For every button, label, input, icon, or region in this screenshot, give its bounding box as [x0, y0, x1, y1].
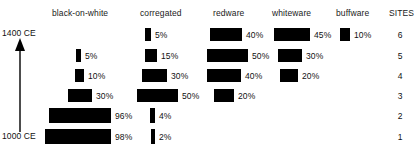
table-row: 10% 30% 40% 20% 4 [0, 65, 417, 86]
bar-label-corregated: 4% [159, 111, 172, 121]
bar-label-redware: 40% [245, 71, 262, 81]
bar-label-black-on-white: 10% [88, 71, 105, 81]
bar-redware [207, 49, 248, 62]
cell-whiteware: 20% [280, 65, 319, 86]
sites-count: 2 [392, 111, 408, 121]
bar-label-buffware: 10% [354, 30, 371, 40]
bar-whiteware [274, 28, 310, 41]
sites-count: 1 [392, 132, 408, 142]
column-header-black-on-white: black-on-white [52, 8, 108, 18]
bar-corregated [137, 89, 178, 102]
cell-redware: 20% [214, 85, 255, 106]
bar-whiteware [280, 69, 298, 82]
bar-corregated [145, 49, 157, 62]
sites-count: 4 [392, 71, 408, 81]
bar-black-on-white [49, 108, 111, 123]
bar-label-corregated: 2% [159, 132, 172, 142]
cell-whiteware: 45% [274, 24, 331, 45]
column-header-whiteware: whiteware [272, 8, 311, 18]
column-header-corregated: corregated [140, 8, 182, 18]
table-row: 96% 4% 2 [0, 105, 417, 126]
cell-redware: 50% [207, 45, 269, 66]
cell-black-on-white: 98% [45, 126, 132, 147]
bar-label-black-on-white: 5% [85, 51, 98, 61]
cell-buffware: 10% [340, 24, 371, 45]
cell-black-on-white [40, 24, 112, 45]
seriation-chart: black-on-white corregated redware whitew… [0, 0, 417, 152]
bar-buffware [340, 28, 350, 41]
bar-label-corregated: 50% [182, 91, 199, 101]
bar-corregated [145, 28, 151, 41]
bar-black-on-white [45, 129, 111, 144]
bar-black-on-white [75, 69, 84, 82]
column-header-sites: SITES [389, 8, 414, 18]
bar-label-redware: 50% [252, 51, 269, 61]
table-row: 30% 50% 20% 3 [0, 85, 417, 106]
bar-label-whiteware: 45% [314, 30, 331, 40]
cell-corregated: 15% [145, 45, 178, 66]
bar-label-corregated: 15% [161, 51, 178, 61]
bar-black-on-white [76, 49, 81, 62]
bar-label-black-on-white: 30% [96, 91, 113, 101]
cell-corregated: 5% [145, 24, 168, 45]
bar-corregated [150, 108, 155, 123]
bar-redware [210, 28, 242, 41]
bar-label-redware: 20% [238, 91, 255, 101]
table-row: 5% 15% 50% 30% 5 [0, 45, 417, 66]
cell-redware: 40% [210, 24, 263, 45]
bar-whiteware [278, 49, 302, 62]
table-row: 98% 2% 1 [0, 126, 417, 147]
cell-corregated: 4% [150, 105, 172, 126]
bar-label-redware: 40% [246, 30, 263, 40]
bar-label-black-on-white: 96% [115, 111, 132, 121]
bar-label-whiteware: 30% [306, 51, 323, 61]
cell-corregated: 50% [137, 85, 199, 106]
bar-label-corregated: 30% [171, 71, 188, 81]
column-header-redware: redware [213, 8, 244, 18]
cell-black-on-white: 10% [75, 65, 105, 86]
bar-corregated [142, 69, 167, 82]
bar-redware [214, 89, 234, 102]
sites-count: 5 [392, 51, 408, 61]
cell-black-on-white: 5% [76, 45, 98, 66]
cell-redware: 40% [207, 65, 262, 86]
cell-black-on-white: 30% [68, 85, 113, 106]
cell-black-on-white: 96% [49, 105, 132, 126]
cell-corregated: 2% [151, 126, 172, 147]
bar-corregated [151, 129, 155, 144]
cell-whiteware: 30% [278, 45, 323, 66]
column-header-buffware: buffware [336, 8, 369, 18]
sites-count: 3 [392, 91, 408, 101]
bar-label-whiteware: 20% [302, 71, 319, 81]
bar-label-corregated: 5% [155, 30, 168, 40]
bar-label-black-on-white: 98% [115, 132, 132, 142]
bar-black-on-white [68, 89, 92, 102]
sites-count: 6 [392, 30, 408, 40]
cell-corregated: 30% [142, 65, 188, 86]
bar-redware [207, 69, 241, 82]
table-row: 5% 40% 45% 10% 6 [0, 24, 417, 45]
